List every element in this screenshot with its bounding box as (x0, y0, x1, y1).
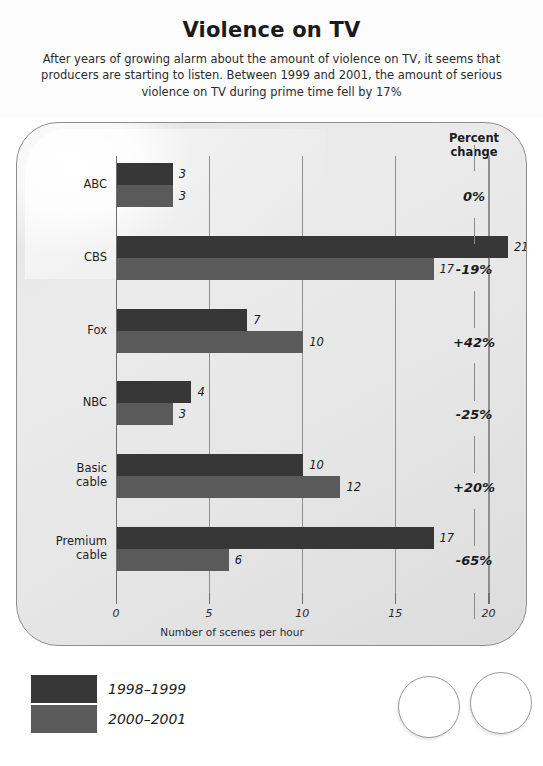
legend-swatch-2000-2001 (31, 705, 97, 733)
category-label-line: Premium (17, 534, 107, 548)
category-label-line: NBC (17, 395, 107, 409)
bar-basic-cable-2000–2001 (117, 476, 340, 498)
percent-change-header-line1: Percent (429, 131, 519, 145)
percent-change-value-fox: +42% (429, 335, 519, 350)
bar-nbc-1998–1999 (117, 381, 191, 403)
percent-column-divider (474, 363, 475, 389)
legend-label-1998-1999: 1998–1999 (108, 681, 186, 697)
bar-fox-2000–2001 (117, 331, 303, 353)
bar-abc-1998–1999 (117, 163, 173, 185)
x-axis-tick (302, 593, 303, 604)
percent-change-value-cbs: -19% (429, 262, 519, 277)
bar-value-label: 7 (253, 313, 260, 327)
category-label-cbs: CBS (17, 250, 107, 264)
chart-panel: Percent change Number of scenes per hour… (16, 122, 527, 646)
bar-abc-2000–2001 (117, 185, 173, 207)
x-axis-tick-label: 20 (481, 607, 495, 620)
page-title: Violence on TV (0, 18, 543, 42)
percent-change-value-basic-cable: +20% (429, 480, 519, 495)
bar-fox-1998–1999 (117, 309, 247, 331)
bar-basic-cable-1998–1999 (117, 454, 303, 476)
bar-value-label: 21 (514, 240, 527, 254)
category-label-nbc: NBC (17, 395, 107, 409)
category-label-fox: Fox (17, 323, 107, 337)
bar-value-label: 3 (179, 167, 186, 181)
legend-label-2000-2001: 2000–2001 (108, 711, 186, 727)
x-axis-tick (395, 593, 396, 604)
bar-cbs-1998–1999 (117, 236, 508, 258)
bar-value-label: 4 (197, 385, 204, 399)
bar-value-label: 6 (235, 553, 242, 567)
percent-column-divider (474, 436, 475, 462)
chart-header: Violence on TV After years of growing al… (0, 0, 543, 118)
bar-value-label: 10 (309, 335, 324, 349)
bar-value-label: 3 (179, 407, 186, 421)
x-axis-tick-label: 5 (206, 607, 213, 620)
bar-premium-cable-1998–1999 (117, 527, 434, 549)
category-label-line: Fox (17, 323, 107, 337)
legend-swatch-1998-1999 (31, 675, 97, 703)
category-label-basic-cable: Basiccable (17, 461, 107, 489)
bar-value-label: 10 (309, 458, 324, 472)
x-axis-tick (488, 593, 489, 604)
bar-cbs-2000–2001 (117, 258, 434, 280)
percent-column-divider (474, 593, 475, 619)
decorative-circle-left (398, 676, 460, 738)
percent-change-value-abc: 0% (429, 189, 519, 204)
chart-subtitle: After years of growing alarm about the a… (30, 51, 513, 100)
percent-change-value-nbc: -25% (429, 407, 519, 422)
bar-value-label: 3 (179, 189, 186, 203)
percent-column-divider (474, 291, 475, 317)
percent-column-divider (474, 509, 475, 535)
x-axis-tick-label: 15 (388, 607, 402, 620)
percent-column-divider (474, 145, 475, 171)
percent-change-value-premium-cable: -65% (429, 553, 519, 568)
category-label-abc: ABC (17, 177, 107, 191)
x-axis-tick-label: 10 (295, 607, 309, 620)
category-label-line: cable (17, 475, 107, 489)
percent-column-divider (474, 218, 475, 244)
bar-premium-cable-2000–2001 (117, 549, 229, 571)
gridline (488, 156, 489, 593)
bar-value-label: 12 (346, 480, 361, 494)
x-axis-tick (209, 593, 210, 604)
x-axis-tick-label: 0 (113, 607, 120, 620)
bar-nbc-2000–2001 (117, 403, 173, 425)
x-axis-tick (116, 593, 117, 604)
category-label-line: Basic (17, 461, 107, 475)
bar-value-label: 17 (440, 531, 455, 545)
x-axis-title: Number of scenes per hour (17, 626, 447, 638)
category-label-line: CBS (17, 250, 107, 264)
category-label-line: ABC (17, 177, 107, 191)
decorative-circle-right (470, 672, 532, 734)
category-label-line: cable (17, 548, 107, 562)
category-label-premium-cable: Premiumcable (17, 534, 107, 562)
